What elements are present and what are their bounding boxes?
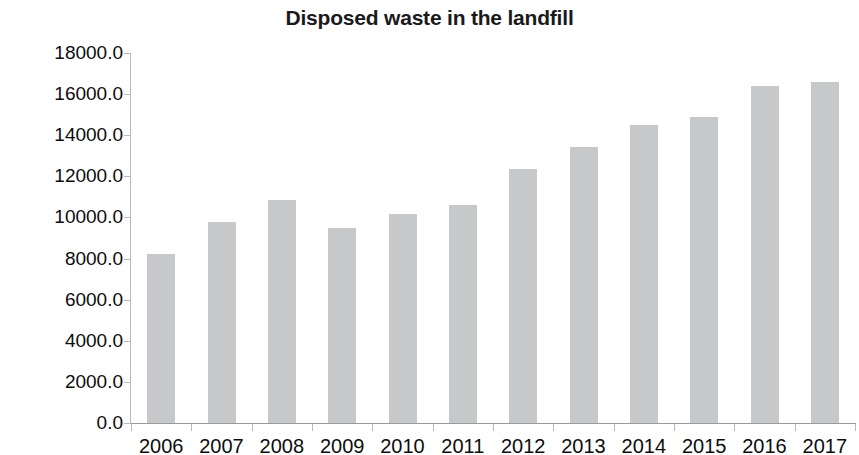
bar — [690, 117, 718, 423]
x-axis-tick-mark — [433, 424, 434, 431]
y-axis-tick-mark — [124, 176, 131, 177]
y-axis-tick-mark — [124, 217, 131, 218]
x-axis-tick-mark — [614, 424, 615, 431]
y-axis-tick-mark — [124, 94, 131, 95]
y-axis-tick-label: 2000.0 — [9, 371, 123, 393]
x-axis-tick-mark — [795, 424, 796, 431]
y-axis-tick-mark — [124, 382, 131, 383]
bar — [449, 205, 477, 423]
x-axis-tick-label: 2017 — [790, 435, 859, 455]
y-axis-tick-label: 10000.0 — [9, 206, 123, 228]
x-axis-tick-mark — [553, 424, 554, 431]
x-axis-tick-mark — [312, 424, 313, 431]
y-axis-tick-mark — [124, 53, 131, 54]
y-axis-tick-label: 18000.0 — [9, 42, 123, 64]
bar — [570, 147, 598, 423]
y-axis-line — [130, 53, 131, 424]
x-axis-tick-mark — [734, 424, 735, 431]
y-axis-tick-mark — [124, 341, 131, 342]
y-axis-tick-label: 0.0 — [9, 412, 123, 434]
x-axis-tick-mark — [372, 424, 373, 431]
bar — [268, 200, 296, 423]
y-axis-tick-label: 6000.0 — [9, 289, 123, 311]
y-axis-tick-mark — [124, 423, 131, 424]
y-axis-tick-label: 16000.0 — [9, 83, 123, 105]
bar-chart: Disposed waste in the landfill Waste dis… — [0, 0, 859, 455]
bar — [389, 214, 417, 423]
x-axis-tick-mark — [493, 424, 494, 431]
bar — [751, 86, 779, 423]
bar — [147, 254, 175, 423]
y-axis-tick-mark — [124, 135, 131, 136]
chart-title: Disposed waste in the landfill — [0, 6, 859, 30]
x-axis-tick-mark — [252, 424, 253, 431]
bar — [811, 82, 839, 423]
bar — [630, 125, 658, 423]
y-axis-tick-label: 4000.0 — [9, 330, 123, 352]
bar — [328, 228, 356, 423]
y-axis-tick-mark — [124, 259, 131, 260]
plot-area: 0.02000.04000.06000.08000.010000.012000.… — [131, 53, 855, 423]
x-axis-tick-mark — [131, 424, 132, 431]
bar — [509, 169, 537, 423]
x-axis-tick-mark — [191, 424, 192, 431]
x-axis-tick-mark — [674, 424, 675, 431]
y-axis-tick-label: 12000.0 — [9, 165, 123, 187]
bar — [208, 222, 236, 423]
y-axis-tick-label: 14000.0 — [9, 124, 123, 146]
y-axis-tick-mark — [124, 300, 131, 301]
y-axis-tick-label: 8000.0 — [9, 248, 123, 270]
x-axis-tick-mark — [855, 424, 856, 431]
